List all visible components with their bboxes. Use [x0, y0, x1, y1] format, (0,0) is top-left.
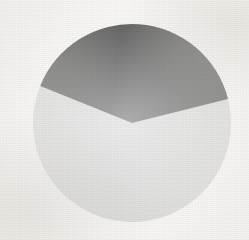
pie-chart-figure — [0, 0, 249, 240]
pie-chart-svg — [0, 0, 249, 240]
